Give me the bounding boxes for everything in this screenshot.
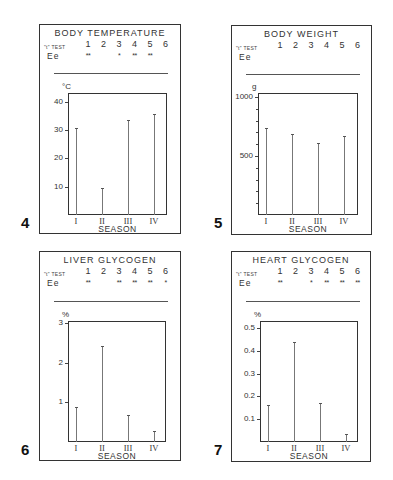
bar-cap [293,342,296,343]
heart-glycogen-plot-area [260,321,358,442]
x-label-season-IV: IV [336,216,352,226]
separator-line [246,301,360,302]
significance-marker-1: ** [275,279,285,286]
test-number-3: 3 [306,266,316,276]
bar-cap [267,405,270,406]
bar-season-I [268,405,269,442]
y-tick [257,328,260,329]
significance-marker-4: ** [130,279,140,286]
liver-glycogen-plot-area [68,321,166,442]
bar-cap [127,415,130,416]
test-number-2: 2 [291,266,301,276]
y-unit-label: % [254,310,261,319]
y-tick-label: 1000 [225,92,253,101]
figure-number-6: 6 [21,441,29,458]
significance-marker-4: ** [130,52,140,59]
test-number-4: 4 [322,266,332,276]
y-tick [257,351,260,352]
test-number-1: 1 [275,40,285,50]
x-label-season-IV: IV [146,443,162,453]
x-label-season-I: I [68,443,84,453]
y-tick-label: 30 [35,125,63,134]
y-minor-tick [256,191,258,192]
significance-marker-5: ** [145,52,155,59]
test-number-4: 4 [130,266,140,276]
significance-marker-3: ** [114,279,124,286]
significance-marker-1: ** [83,279,93,286]
y-tick-label: 20 [35,153,63,162]
x-label-season-IV: IV [146,216,162,226]
x-label-season-IV: IV [338,443,354,453]
bar-season-I [266,128,267,215]
body-temperature-plot-area [68,93,167,215]
bar-cap [319,403,322,404]
x-label-season-I: I [68,216,84,226]
x-label-season-I: I [258,216,274,226]
y-minor-tick [256,203,258,204]
liver-glycogen-title: LIVER GLYCOGEN [40,255,180,265]
y-minor-tick [256,180,258,181]
figure-number-4: 4 [21,214,29,231]
ttest-label: "t" TEST [44,271,65,277]
bar-cap [153,431,156,432]
y-tick [257,419,260,420]
y-unit-label: °C [62,82,71,91]
bar-cap [291,134,294,135]
y-tick [65,323,68,324]
significance-marker-6: ** [353,279,363,286]
bar-season-II [102,346,103,442]
y-tick [257,396,260,397]
x-axis-title: SEASON [279,451,339,461]
y-tick-label: 10 [35,182,63,191]
ttest-label: "t" TEST [236,45,257,51]
y-unit-label: g [252,82,256,91]
bar-cap [317,143,320,144]
test-number-5: 5 [337,266,347,276]
x-axis-title: SEASON [87,451,147,461]
bar-cap [75,128,78,129]
heart-glycogen-title: HEART GLYCOGEN [232,255,370,265]
y-minor-tick [256,168,258,169]
separator-line [54,301,168,302]
test-number-6: 6 [353,266,363,276]
test-number-1: 1 [275,266,285,276]
body-weight-panel: BODY WEIGHT"t" TESTEe123456g5001000IIIII… [231,25,372,235]
y-minor-tick [256,121,258,122]
bar-cap [101,346,104,347]
row-label-ee: Ee [239,52,251,62]
y-tick [65,402,68,403]
test-number-2: 2 [99,39,109,49]
y-tick-label: 0.1 [227,414,255,423]
ttest-label: "t" TEST [44,44,65,50]
test-number-5: 5 [145,266,155,276]
y-tick-label: 3 [35,318,63,327]
row-label-ee: Ee [47,51,59,61]
y-tick-label: 40 [35,97,63,106]
liver-glycogen-panel: LIVER GLYCOGEN"t" TESTEe1**23**4**5**6*%… [39,251,181,461]
body-temperature-panel: BODY TEMPERATURE"t" TESTEe1**23*4**5**6°… [39,24,181,234]
bar-cap [345,434,348,435]
bar-season-IV [154,431,155,442]
significance-marker-6: * [161,279,171,286]
y-tick [255,97,258,98]
bar-season-III [128,415,129,442]
y-minor-tick [256,144,258,145]
bar-season-IV [346,434,347,442]
x-axis-title: SEASON [278,224,338,234]
significance-marker-5: ** [145,279,155,286]
significance-marker-1: ** [83,52,93,59]
y-tick-label: 1 [35,397,63,406]
test-number-6: 6 [161,266,171,276]
y-tick-label: 500 [225,151,253,160]
body-weight-title: BODY WEIGHT [232,29,371,39]
bar-season-IV [154,114,155,215]
bar-cap [153,114,156,115]
y-tick-label: 0.3 [227,369,255,378]
y-tick [257,374,260,375]
y-tick [255,156,258,157]
bar-season-III [320,403,321,442]
test-number-1: 1 [83,39,93,49]
y-minor-tick [256,132,258,133]
y-tick-label: 0.2 [227,391,255,400]
figure-number-7: 7 [214,441,222,458]
